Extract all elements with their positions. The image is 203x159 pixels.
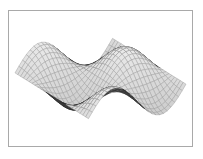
surface-plot-canvas — [9, 11, 192, 146]
plot-frame — [8, 10, 193, 147]
figure-root — [0, 0, 203, 159]
